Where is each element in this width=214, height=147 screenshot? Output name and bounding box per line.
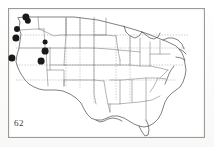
va-nc-boundary [160, 70, 168, 78]
mt-wy-boundary [66, 18, 80, 35]
cape-cod-outline [179, 49, 186, 54]
ut-co-boundary [64, 35, 66, 65]
new-england-outline [163, 38, 184, 49]
nv-az-boundary [47, 70, 64, 86]
florida-peninsula [139, 120, 149, 136]
figure-number-label: 62 [14, 119, 24, 128]
ia-il-in-boundary [118, 50, 140, 52]
ky-va-boundary [150, 66, 168, 70]
mid-atlantic-coast [165, 66, 174, 84]
ca-nv-boundary [46, 48, 48, 86]
state-boundaries-group [19, 17, 170, 120]
ne-ia-boundary [94, 48, 118, 50]
us-map-outline [8, 8, 205, 138]
tx-ar-la-boundary [104, 81, 110, 112]
wa-id-boundary [38, 17, 39, 29]
figure-panel: 62 Distribution map of the United States [0, 0, 214, 147]
ok-tx-boundary [94, 80, 96, 104]
national-outline [16, 17, 186, 127]
great-lakes-outline [124, 26, 142, 38]
